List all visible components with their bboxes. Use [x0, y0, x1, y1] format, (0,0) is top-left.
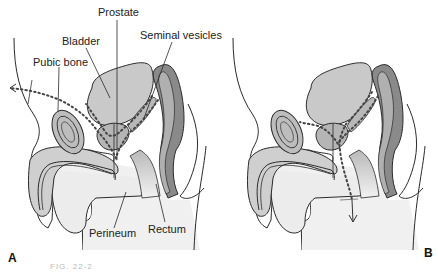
panel-letter-b: B	[424, 247, 433, 259]
panel-b-illustration	[233, 38, 425, 250]
label-pubic-bone: Pubic bone	[33, 57, 88, 68]
label-bladder: Bladder	[62, 36, 100, 47]
label-rectum: Rectum	[148, 224, 186, 235]
panel-a-illustration	[10, 20, 206, 250]
pelvic-anatomy-figure: Prostate Bladder Seminal vesicles Pubic …	[0, 0, 438, 272]
panel-letter-a: A	[8, 252, 17, 264]
figure-caption: FIG. 22-2	[50, 262, 93, 271]
label-perineum: Perineum	[89, 228, 136, 239]
label-prostate: Prostate	[98, 7, 139, 18]
label-seminal-vesicles: Seminal vesicles	[140, 30, 222, 41]
